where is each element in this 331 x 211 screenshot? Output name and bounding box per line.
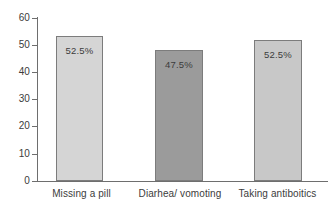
y-axis-tick-label: 30 [4,94,30,104]
y-axis-tick-30: 30 [0,94,30,104]
bar-chart: 60 50 40 30 20 10 0 52.5% 47.5% 52.5% [0,0,331,211]
y-axis-tick-10: 10 [0,149,30,159]
x-axis-category-label-2: Diarhea/ vomoting [126,188,234,200]
y-axis-tick-40: 40 [0,67,30,77]
plot-area: 52.5% 47.5% 52.5% [38,18,328,181]
y-axis-tick-label: 20 [4,121,30,131]
bar-missing-a-pill[interactable]: 52.5% [56,36,103,181]
bar-value-label: 52.5% [57,46,102,56]
bar-value-label: 52.5% [255,50,301,60]
y-axis-tick-label: 0 [4,176,30,186]
bar-diarhea-vomoting[interactable]: 47.5% [155,50,203,181]
y-axis-tick-0: 0 [0,176,30,186]
y-axis-tick-label: 60 [4,13,30,23]
y-axis-tick-60: 60 [0,13,30,23]
y-axis-tick-label: 50 [4,40,30,50]
y-axis-tick-20: 20 [0,121,30,131]
x-axis-category-label-3: Taking antiboitics [224,188,331,200]
y-axis-tick-label: 40 [4,67,30,77]
bar-taking-antiboitics[interactable]: 52.5% [254,40,302,181]
y-axis-tick-label: 10 [4,149,30,159]
y-axis-tick-50: 50 [0,40,30,50]
x-axis-line [32,181,328,182]
bar-value-label: 47.5% [156,60,202,70]
x-axis-category-label-1: Missing a pill [28,188,135,200]
